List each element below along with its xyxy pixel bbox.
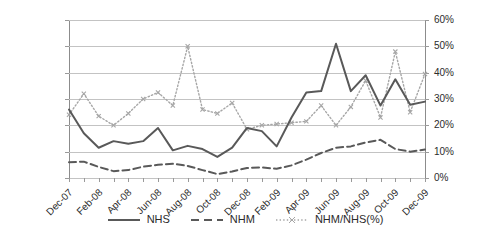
data-point-marker — [230, 101, 234, 105]
data-point-marker — [126, 111, 130, 115]
x-axis-tick — [292, 178, 293, 182]
legend-label-nhm: NHM — [230, 214, 255, 225]
x-axis-tick — [321, 178, 322, 182]
data-point-marker — [349, 105, 353, 109]
legend-label-nhm-nhs-pct: NHM/NHS(%) — [315, 214, 383, 225]
x-axis-tick — [69, 178, 70, 182]
x-axis-tick — [381, 178, 382, 182]
x-axis-tick — [114, 178, 115, 182]
x-axis-tick — [188, 178, 189, 182]
legend-swatch-dashed — [190, 215, 224, 225]
series-markers-nhm-nhs-pct — [67, 44, 427, 131]
right-axis-tick-label: 0% — [434, 173, 448, 183]
x-axis-tick — [128, 178, 129, 182]
left-axis-tick — [65, 178, 69, 179]
x-axis-tick — [158, 178, 159, 182]
right-axis-tick — [425, 152, 429, 153]
right-axis-tick-label: 20% — [434, 120, 454, 130]
right-axis-tick-label: 30% — [434, 94, 454, 104]
legend-swatch-solid — [107, 215, 141, 225]
x-axis-tick — [247, 178, 248, 182]
right-axis-tick — [425, 125, 429, 126]
legend-label-nhs: NHS — [147, 214, 170, 225]
legend-item-nhm-nhs-pct[interactable]: NHM/NHS(%) — [275, 214, 383, 225]
plot-area — [69, 20, 425, 178]
right-axis-tick-label: 60% — [434, 15, 454, 25]
x-axis-tick — [217, 178, 218, 182]
legend-item-nhm[interactable]: NHM — [190, 214, 255, 225]
x-axis-tick — [366, 178, 367, 182]
data-point-marker — [141, 97, 145, 101]
x-axis-tick — [306, 178, 307, 182]
series-line-nhs — [69, 44, 425, 157]
data-point-marker — [82, 92, 86, 96]
x-axis-tick — [262, 178, 263, 182]
x-axis-tick — [395, 178, 396, 182]
series-layer — [69, 20, 425, 178]
right-axis-tick — [425, 20, 429, 21]
right-axis-tick — [425, 178, 429, 179]
x-axis-tick — [410, 178, 411, 182]
right-axis-tick-label: 50% — [434, 41, 454, 51]
data-point-marker — [97, 114, 101, 118]
x-axis-tick — [84, 178, 85, 182]
legend-item-nhs[interactable]: NHS — [107, 214, 170, 225]
x-axis-tick — [232, 178, 233, 182]
right-axis-tick — [425, 99, 429, 100]
data-point-marker — [156, 90, 160, 94]
right-axis-tick — [425, 46, 429, 47]
right-axis-tick-label: 40% — [434, 68, 454, 78]
data-point-marker — [111, 123, 115, 127]
data-point-marker — [319, 103, 323, 107]
chart-legend: NHS NHM NHM/NHS(%) — [0, 214, 490, 225]
x-axis-tick — [173, 178, 174, 182]
x-axis-tick — [336, 178, 337, 182]
right-axis-tick-label: 10% — [434, 147, 454, 157]
x-axis-tick — [277, 178, 278, 182]
x-axis-tick — [99, 178, 100, 182]
legend-swatch-dotted — [275, 215, 309, 225]
chart-container: 01,000,0002,000,0003,000,0004,000,0005,0… — [0, 0, 490, 241]
x-axis-tick — [203, 178, 204, 182]
x-axis-tick — [143, 178, 144, 182]
x-axis-tick — [351, 178, 352, 182]
series-line-nhm — [69, 140, 425, 174]
data-point-marker — [334, 123, 338, 127]
